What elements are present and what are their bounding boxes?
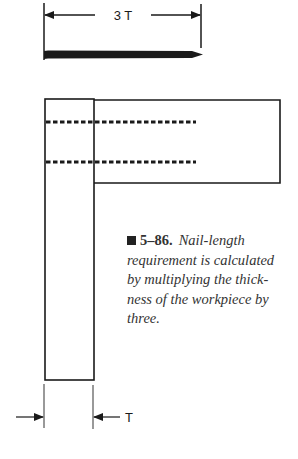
figure-number: 5–86. [140,232,173,248]
thickness-label: T [125,410,133,425]
nail-icon [44,51,203,60]
caption-line-4: ness of the workpiece by [127,291,269,307]
caption-line-3: by multiplying the thick- [127,271,268,287]
horizontal-board [94,100,280,183]
figure-caption: 5–86.Nail-length requirement is calculat… [127,231,297,329]
caption-line-5: three. [127,310,160,326]
caption-line-2: requirement is calculated [127,252,274,268]
figure-square-icon [127,236,136,245]
nail-length-label: 3 T [114,8,133,23]
caption-line-1: Nail-length [179,232,245,248]
thickness-dimension: T [16,384,133,429]
vertical-board [45,99,94,380]
nail-length-diagram: 3 T T [0,0,298,459]
